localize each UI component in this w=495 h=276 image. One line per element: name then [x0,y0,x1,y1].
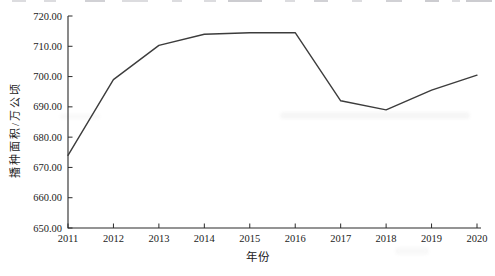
line-chart-figure: 650.00660.00670.00680.00690.00700.00710.… [0,0,495,276]
y-tick-label: 650.00 [33,223,62,234]
x-tick-label: 2014 [194,233,216,244]
axis-spines [68,16,481,228]
y-tick-label: 660.00 [33,192,62,203]
line-chart-svg: 650.00660.00670.00680.00690.00700.00710.… [0,0,495,276]
x-tick-label: 2018 [376,233,397,244]
x-tick-label: 2015 [239,233,260,244]
y-tick-label: 720.00 [33,11,62,22]
x-tick-label: 2016 [285,233,306,244]
y-tick-label: 710.00 [33,41,62,52]
y-tick-label: 670.00 [33,162,62,173]
y-tick-label: 690.00 [33,101,62,112]
y-axis-title: 播种面积/万公顷 [6,82,22,178]
y-tick-label: 680.00 [33,132,62,143]
x-axis-title: 年份 [246,248,270,264]
x-tick-label: 2011 [58,233,79,244]
y-tick-label: 700.00 [33,71,62,82]
x-tick-label: 2017 [330,233,351,244]
x-tick-label: 2020 [467,233,488,244]
x-tick-label: 2012 [103,233,124,244]
x-tick-label: 2019 [421,233,442,244]
data-line-series [68,33,477,156]
x-tick-label: 2013 [148,233,169,244]
